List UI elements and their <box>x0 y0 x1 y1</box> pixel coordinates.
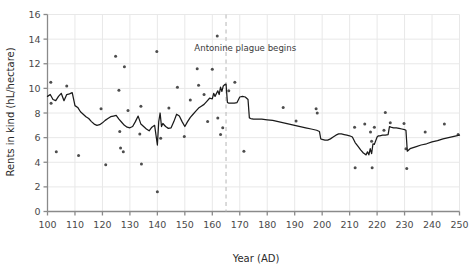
scatter-point <box>189 99 192 102</box>
scatter-point <box>295 120 298 123</box>
x-tick-label: 170 <box>231 219 249 230</box>
scatter-points <box>49 35 459 194</box>
scatter-point <box>197 84 200 87</box>
scatter-point <box>196 67 199 70</box>
scatter-point <box>203 93 206 96</box>
scatter-point <box>371 166 374 169</box>
scatter-point <box>65 84 68 87</box>
x-tick-label: 230 <box>395 219 413 230</box>
scatter-point <box>206 120 209 123</box>
scatter-point <box>216 35 219 38</box>
annotation-label-antonine-plague: Antonine plague begins <box>194 43 296 53</box>
trend-line <box>48 84 460 155</box>
scatter-point <box>104 163 107 166</box>
x-tick-label: 250 <box>450 219 468 230</box>
scatter-point <box>100 107 103 110</box>
scatter-point <box>384 111 387 114</box>
scatter-point <box>353 126 356 129</box>
scatter-point <box>405 167 408 170</box>
x-tick-label: 240 <box>423 219 441 230</box>
scatter-point <box>159 137 162 140</box>
y-tick-label: 14 <box>28 34 40 45</box>
y-tick-label: 12 <box>28 58 40 69</box>
scatter-point <box>183 135 186 138</box>
trend-line-path <box>48 84 460 155</box>
x-tick-label: 160 <box>203 219 221 230</box>
x-tick-label: 150 <box>176 219 194 230</box>
x-tick-label: 130 <box>121 219 139 230</box>
x-axis: 1001101201301401501601701801902002102202… <box>38 212 468 230</box>
scatter-point <box>443 123 446 126</box>
scatter-point <box>55 150 58 153</box>
scatter-point <box>373 126 376 129</box>
scatter-point <box>114 55 117 58</box>
x-axis-title: Year (AD) <box>232 253 280 264</box>
scatter-point <box>389 121 392 124</box>
chart-canvas: 0246810121416 10011012013014015016017018… <box>0 0 476 269</box>
scatter-point <box>282 106 285 109</box>
scatter-point <box>118 130 121 133</box>
scatter-point <box>403 122 406 125</box>
scatter-point <box>122 150 125 153</box>
scatter-point <box>424 131 427 134</box>
scatter-point <box>77 154 80 157</box>
x-tick-label: 210 <box>341 219 359 230</box>
y-axis-title: Rents in kind (hL/hectare) <box>5 47 16 176</box>
x-tick-label: 140 <box>148 219 166 230</box>
scatter-point <box>216 116 219 119</box>
y-tick-label: 6 <box>34 132 40 143</box>
scatter-point <box>221 126 224 129</box>
scatter-point <box>176 86 179 89</box>
x-tick-label: 110 <box>66 219 84 230</box>
scatter-point <box>233 81 236 84</box>
scatter-point <box>123 65 126 68</box>
scatter-point <box>138 132 141 135</box>
scatter-point <box>370 140 373 143</box>
x-tick-label: 190 <box>286 219 304 230</box>
x-tick-label: 100 <box>38 219 56 230</box>
scatter-point <box>219 133 222 136</box>
scatter-point <box>242 150 245 153</box>
annotation-labels: Antonine plague begins <box>194 43 296 53</box>
scatter-point <box>211 68 214 71</box>
x-tick-label: 120 <box>93 219 111 230</box>
scatter-point <box>354 166 357 169</box>
rents-scatter-chart: 0246810121416 10011012013014015016017018… <box>0 0 476 269</box>
scatter-point <box>315 107 318 110</box>
scatter-point <box>382 129 385 132</box>
x-tick-label: 180 <box>258 219 276 230</box>
scatter-point <box>156 190 159 193</box>
scatter-point <box>117 89 120 92</box>
scatter-point <box>167 107 170 110</box>
scatter-point <box>139 105 142 108</box>
scatter-point <box>369 131 372 134</box>
scatter-point <box>50 102 53 105</box>
x-tick-label: 200 <box>313 219 331 230</box>
scatter-point <box>363 123 366 126</box>
scatter-point <box>140 163 143 166</box>
y-tick-label: 4 <box>34 157 40 168</box>
x-tick-label: 220 <box>368 219 386 230</box>
scatter-point <box>227 89 230 92</box>
scatter-point <box>155 50 158 53</box>
scatter-point <box>126 109 129 112</box>
y-axis: 0246810121416 <box>28 9 47 217</box>
y-tick-label: 8 <box>34 108 40 119</box>
y-tick-label: 2 <box>34 181 40 192</box>
y-tick-label: 10 <box>28 83 40 94</box>
y-tick-label: 0 <box>34 206 40 217</box>
scatter-point <box>49 81 52 84</box>
scatter-point <box>119 147 122 150</box>
y-tick-label: 16 <box>28 9 40 20</box>
scatter-point <box>316 112 319 115</box>
